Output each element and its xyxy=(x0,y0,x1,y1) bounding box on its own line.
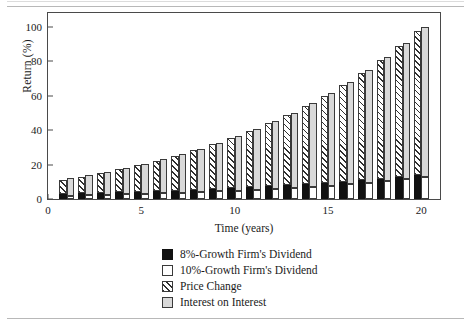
bar-group xyxy=(78,13,93,199)
legend-label: Price Change xyxy=(180,280,242,292)
bar-right xyxy=(85,13,92,199)
segment-8pct-growth-dividend xyxy=(171,191,178,199)
bar-left xyxy=(339,13,346,199)
bar-left xyxy=(321,13,328,199)
bar-right xyxy=(216,13,223,199)
x-tick-label: 15 xyxy=(323,199,334,216)
segment-interest-on-interest xyxy=(384,57,391,181)
bar-left xyxy=(209,13,216,199)
chart-legend: 8%-Growth Firm's Dividend10%-Growth Firm… xyxy=(162,246,318,310)
bar-right xyxy=(179,13,186,199)
x-tick-label: 5 xyxy=(139,199,145,216)
segment-8pct-growth-dividend xyxy=(302,184,309,199)
bar-left xyxy=(134,13,141,199)
segment-price-change xyxy=(227,138,234,188)
bar-left xyxy=(395,13,402,199)
segment-8pct-growth-dividend xyxy=(209,189,216,199)
segment-8pct-growth-dividend xyxy=(395,177,402,199)
segment-8pct-growth-dividend xyxy=(283,185,290,199)
segment-10pct-growth-dividend xyxy=(328,186,335,199)
bar-group xyxy=(171,13,186,199)
bar-right xyxy=(291,13,298,199)
bar-left xyxy=(358,13,365,199)
segment-10pct-growth-dividend xyxy=(384,181,391,199)
segment-10pct-growth-dividend xyxy=(291,188,298,199)
bar-left xyxy=(246,13,253,199)
segment-price-change xyxy=(414,31,421,176)
bar-right xyxy=(309,13,316,199)
segment-interest-on-interest xyxy=(179,154,186,193)
segment-8pct-growth-dividend xyxy=(97,193,104,199)
segment-price-change xyxy=(265,123,272,186)
segment-8pct-growth-dividend xyxy=(414,175,421,199)
bar-right xyxy=(141,13,148,199)
legend-swatch-gray xyxy=(162,297,173,308)
segment-interest-on-interest xyxy=(347,82,354,184)
segment-10pct-growth-dividend xyxy=(403,179,410,199)
segment-price-change xyxy=(97,173,104,193)
segment-price-change xyxy=(59,180,66,194)
bar-left xyxy=(153,13,160,199)
bar-group xyxy=(246,13,261,199)
legend-swatch-black xyxy=(162,249,173,260)
segment-8pct-growth-dividend xyxy=(227,188,234,199)
x-axis-title: Time (years) xyxy=(47,222,441,234)
segment-8pct-growth-dividend xyxy=(78,193,85,199)
bar-group xyxy=(302,13,317,199)
x-tick-mark xyxy=(48,194,49,199)
legend-label: 8%-Growth Firm's Dividend xyxy=(180,248,312,260)
segment-10pct-growth-dividend xyxy=(421,177,428,199)
segment-interest-on-interest xyxy=(272,121,279,189)
x-tick-label: 10 xyxy=(229,199,240,216)
segment-interest-on-interest xyxy=(197,149,204,192)
segment-10pct-growth-dividend xyxy=(235,191,242,199)
segment-price-change xyxy=(171,156,178,191)
bar-group xyxy=(265,13,280,199)
y-tick-mark xyxy=(48,130,53,131)
segment-10pct-growth-dividend xyxy=(160,193,167,199)
segment-price-change xyxy=(302,106,309,184)
segment-8pct-growth-dividend xyxy=(134,192,141,199)
segment-price-change xyxy=(283,115,290,185)
bar-group xyxy=(414,13,429,199)
segment-interest-on-interest xyxy=(216,143,223,192)
bar-right xyxy=(403,13,410,199)
bar-left xyxy=(414,13,421,199)
segment-10pct-growth-dividend xyxy=(179,193,186,199)
bar-right xyxy=(235,13,242,199)
plot-frame: 02040608010005101520 xyxy=(47,12,441,200)
bar-group xyxy=(321,13,336,199)
segment-interest-on-interest xyxy=(67,178,74,195)
bar-right xyxy=(272,13,279,199)
segment-8pct-growth-dividend xyxy=(265,186,272,199)
bar-group xyxy=(59,13,74,199)
bar-right xyxy=(160,13,167,199)
legend-item: 10%-Growth Firm's Dividend xyxy=(162,262,318,278)
segment-8pct-growth-dividend xyxy=(153,191,160,199)
legend-label: Interest on Interest xyxy=(180,296,266,308)
x-tick-label: 0 xyxy=(45,199,51,216)
bar-group xyxy=(227,13,242,199)
y-tick-mark xyxy=(48,164,53,165)
segment-10pct-growth-dividend xyxy=(347,184,354,199)
segment-interest-on-interest xyxy=(253,129,260,190)
bar-group xyxy=(190,13,205,199)
y-tick-mark xyxy=(48,26,53,27)
segment-interest-on-interest xyxy=(104,172,111,195)
bar-right xyxy=(104,13,111,199)
bar-group xyxy=(134,13,149,199)
segment-8pct-growth-dividend xyxy=(246,187,253,199)
figure-container: 02040608010005101520 Return (%) Time (ye… xyxy=(0,0,471,328)
bar-right xyxy=(384,13,391,199)
segment-10pct-growth-dividend xyxy=(67,196,74,199)
top-rule xyxy=(7,6,464,7)
bar-group xyxy=(395,13,410,199)
bar-right xyxy=(328,13,335,199)
legend-item: Interest on Interest xyxy=(162,294,318,310)
segment-price-change xyxy=(209,144,216,189)
bar-right xyxy=(253,13,260,199)
segment-price-change xyxy=(190,150,197,189)
bar-left xyxy=(227,13,234,199)
y-tick-label: 80 xyxy=(31,55,48,67)
segment-8pct-growth-dividend xyxy=(358,180,365,199)
